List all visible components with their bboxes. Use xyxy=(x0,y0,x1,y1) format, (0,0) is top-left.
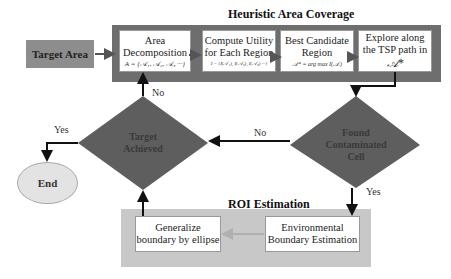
target-achieved-yes-label: Yes xyxy=(54,124,69,135)
found-contaminated-decision[interactable]: Found Contaminated Cell xyxy=(310,124,402,166)
found-no-label: No xyxy=(254,127,266,138)
found-contaminated-line2: Contaminated xyxy=(325,139,386,151)
found-contaminated-line1: Found xyxy=(342,127,370,139)
target-achieved-decision[interactable]: Target Achieved xyxy=(100,128,186,158)
end-terminal[interactable]: End xyxy=(17,162,78,204)
found-yes-label: Yes xyxy=(366,186,381,197)
target-achieved-line2: Achieved xyxy=(123,143,162,155)
found-contaminated-line3: Cell xyxy=(347,151,364,163)
target-achieved-no-label: No xyxy=(152,87,164,98)
target-achieved-line1: Target xyxy=(129,131,157,143)
